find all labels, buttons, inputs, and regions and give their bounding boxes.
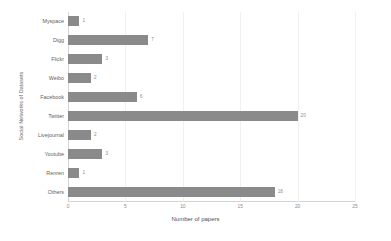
- category-label: Myspace: [42, 16, 64, 26]
- bar-value-label: 1: [82, 16, 85, 26]
- bar-value-label: 2: [94, 130, 97, 140]
- bar-value-label: 6: [140, 92, 143, 102]
- category-label: Twitter: [48, 111, 64, 121]
- bar-row: Flickr3: [68, 50, 355, 69]
- category-label: Youtube: [44, 149, 64, 159]
- x-tick-label: 5: [124, 204, 127, 209]
- x-tick-label: 20: [295, 204, 300, 209]
- bar: [68, 35, 148, 45]
- x-axis-title: Number of papers: [0, 216, 391, 222]
- bar: [68, 149, 102, 159]
- bar-row: Livejournal2: [68, 126, 355, 145]
- category-label: Livejournal: [38, 130, 64, 140]
- x-tick-label: 0: [67, 204, 70, 209]
- category-label: Digg: [53, 35, 64, 45]
- bar-row: Renren1: [68, 164, 355, 183]
- bar-value-label: 20: [301, 111, 306, 121]
- bar-value-label: 3: [105, 149, 108, 159]
- y-axis-title: Social Networks of Datasets: [18, 36, 24, 176]
- bar-row: Others18: [68, 183, 355, 202]
- x-tick-label: 10: [180, 204, 185, 209]
- bar: [68, 187, 275, 197]
- category-label: Weibo: [49, 73, 64, 83]
- bar: [68, 111, 298, 121]
- bar-row: Weibo2: [68, 69, 355, 88]
- gridline: [355, 12, 356, 202]
- bar-value-label: 7: [151, 35, 154, 45]
- bar-value-label: 18: [278, 187, 283, 197]
- bar-row: Youtube3: [68, 145, 355, 164]
- bar-row: Twitter20: [68, 107, 355, 126]
- bar-value-label: 3: [105, 54, 108, 64]
- x-tick-label: 15: [238, 204, 243, 209]
- x-tick-label: 25: [352, 204, 357, 209]
- category-label: Renren: [46, 168, 64, 178]
- category-label: Others: [48, 187, 64, 197]
- category-label: Facebook: [40, 92, 64, 102]
- bar-row: Facebook6: [68, 88, 355, 107]
- bar-chart: Social Networks of Datasets Myspace1Digg…: [0, 0, 391, 241]
- bar: [68, 92, 137, 102]
- category-label: Flickr: [51, 54, 64, 64]
- bar-value-label: 1: [82, 168, 85, 178]
- bar: [68, 73, 91, 83]
- bar-value-label: 2: [94, 73, 97, 83]
- bar: [68, 130, 91, 140]
- bar: [68, 168, 79, 178]
- plot-area: Myspace1Digg7Flickr3Weibo2Facebook6Twitt…: [68, 12, 355, 202]
- bar-row: Digg7: [68, 31, 355, 50]
- bar-row: Myspace1: [68, 12, 355, 31]
- bar: [68, 16, 79, 26]
- bar: [68, 54, 102, 64]
